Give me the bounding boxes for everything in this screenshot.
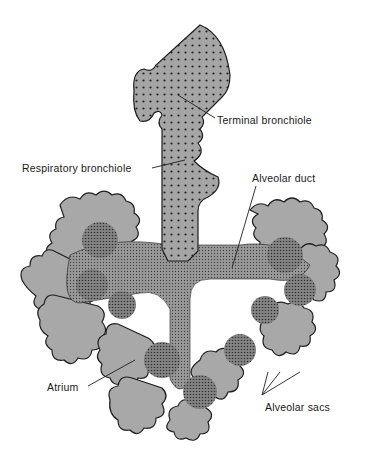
label-alveolar-sacs: Alveolar sacs bbox=[265, 401, 330, 413]
label-terminal-bronchiole: Terminal bronchiole bbox=[217, 114, 312, 126]
label-respiratory-bronchiole: Respiratory bronchiole bbox=[22, 162, 131, 174]
label-atrium: Atrium bbox=[47, 381, 79, 393]
bronchioles bbox=[134, 25, 230, 261]
label-alveolar-duct: Alveolar duct bbox=[252, 172, 315, 184]
